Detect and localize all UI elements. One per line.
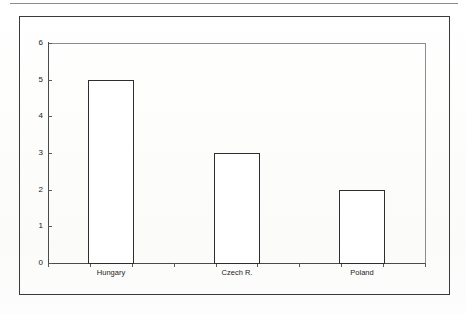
y-axis-tick-label: 1 xyxy=(30,222,43,230)
x-axis-category-label: Hungary xyxy=(48,268,174,278)
y-axis-tick-mark xyxy=(48,190,52,191)
y-axis-tick-mark xyxy=(48,226,52,227)
y-axis-tick-label-text: 3 xyxy=(30,149,43,157)
x-axis-tick-mark xyxy=(48,263,49,267)
y-axis-tick-label: 2 xyxy=(30,186,43,194)
y-axis-tick-mark xyxy=(48,116,52,117)
y-axis-tick-label-text: 4 xyxy=(30,112,43,120)
y-axis-tick-label: 3 xyxy=(30,149,43,157)
bar-poland xyxy=(339,190,385,264)
x-axis-category-label: Czech R. xyxy=(174,268,300,278)
x-axis-category-label: Poland xyxy=(299,268,425,278)
y-axis-tick-label-text: 5 xyxy=(30,76,43,84)
y-axis-tick-mark xyxy=(48,80,52,81)
y-axis-tick-label-text: 2 xyxy=(30,186,43,194)
top-horizontal-rule xyxy=(10,3,458,4)
y-axis-tick-label: 5 xyxy=(30,76,43,84)
y-axis-tick-label-text: 6 xyxy=(30,39,43,47)
bar-hungary xyxy=(88,80,134,264)
y-axis-tick-mark xyxy=(48,43,52,44)
y-axis-tick-label-text: 1 xyxy=(30,222,43,230)
plot-top-border-line xyxy=(48,43,426,44)
x-axis-tick-mark xyxy=(299,263,300,267)
y-axis-tick-label: 6 xyxy=(30,39,43,47)
y-axis-tick-label: 0 xyxy=(30,259,43,267)
x-axis-tick-mark xyxy=(174,263,175,267)
plot-right-border-line xyxy=(425,43,426,264)
chart-page: 0123456 HungaryCzech R.Poland xyxy=(0,0,466,314)
bar-czech-r xyxy=(214,153,260,264)
x-axis-tick-mark xyxy=(425,263,426,267)
y-axis-tick-label-text: 0 xyxy=(30,259,43,267)
y-axis-tick-mark xyxy=(48,153,52,154)
y-axis-tick-label: 4 xyxy=(30,112,43,120)
